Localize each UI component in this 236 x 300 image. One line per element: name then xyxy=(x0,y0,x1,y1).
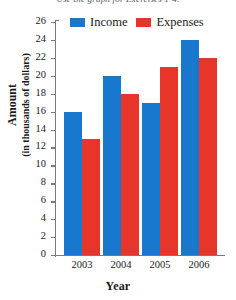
y-tick-label: 20 xyxy=(36,69,47,80)
y-tick-label: 8 xyxy=(41,176,46,187)
bar-income-2006 xyxy=(181,40,199,255)
bar-chart-figure: Use the graph for Exercises 1-4. Income … xyxy=(0,0,236,300)
y-tick-label: 22 xyxy=(36,51,47,62)
y-tick-label: 10 xyxy=(36,158,47,169)
y-axis-title-line1: Amount xyxy=(6,30,19,180)
bar-expenses-2004 xyxy=(121,94,139,255)
x-tick-label-2006: 2006 xyxy=(179,259,219,271)
plot-area xyxy=(55,22,223,255)
cut-off-caption: Use the graph for Exercises 1-4. xyxy=(0,0,236,4)
y-tick-label: 0 xyxy=(41,248,46,259)
y-tick-label: 24 xyxy=(36,33,47,44)
y-tick-label: 12 xyxy=(36,140,47,151)
y-tick-label: 18 xyxy=(36,87,47,98)
x-axis-title: Year xyxy=(0,279,236,294)
y-tick-label: 16 xyxy=(36,105,47,116)
bar-expenses-2005 xyxy=(160,67,178,255)
y-tick-label: 2 xyxy=(41,230,46,241)
y-axis-title: Amount (in thousands of dollars) xyxy=(6,30,32,180)
x-tick-label-2004: 2004 xyxy=(101,259,141,271)
y-tick-label: 4 xyxy=(41,212,46,223)
y-tick-mark xyxy=(51,255,56,256)
bar-expenses-2006 xyxy=(199,58,217,255)
x-tick-label-2003: 2003 xyxy=(62,259,102,271)
y-tick-label: 6 xyxy=(41,194,46,205)
bar-income-2004 xyxy=(103,76,121,255)
y-tick-label: 14 xyxy=(36,123,47,134)
y-tick-label: 26 xyxy=(36,15,47,26)
x-tick-label-2005: 2005 xyxy=(140,259,180,271)
bar-expenses-2003 xyxy=(82,139,100,256)
bar-income-2005 xyxy=(142,103,160,255)
bar-income-2003 xyxy=(64,112,82,255)
x-axis-line xyxy=(55,255,225,256)
y-axis-title-line2: (in thousands of dollars) xyxy=(19,30,32,180)
